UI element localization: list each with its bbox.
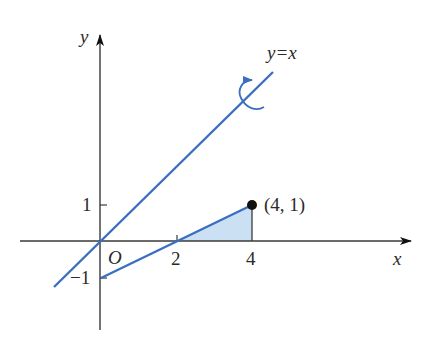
x-tick-label-2: 2 xyxy=(171,248,181,269)
point-label: (4, 1) xyxy=(264,194,305,216)
line-label-y-equals-x: y=x xyxy=(265,42,297,63)
diagram-canvas: y x O 2 4 1 −1 (4, 1) y=x xyxy=(0,0,424,356)
y-axis-label: y xyxy=(78,26,89,47)
y-tick-label-neg1: −1 xyxy=(70,267,90,288)
point-4-1 xyxy=(247,200,257,210)
y-tick-label-1: 1 xyxy=(82,194,92,215)
line-y-equals-x xyxy=(54,72,273,287)
x-axis-label: x xyxy=(392,248,402,269)
x-tick-label-4: 4 xyxy=(246,248,256,269)
origin-label: O xyxy=(108,247,122,268)
